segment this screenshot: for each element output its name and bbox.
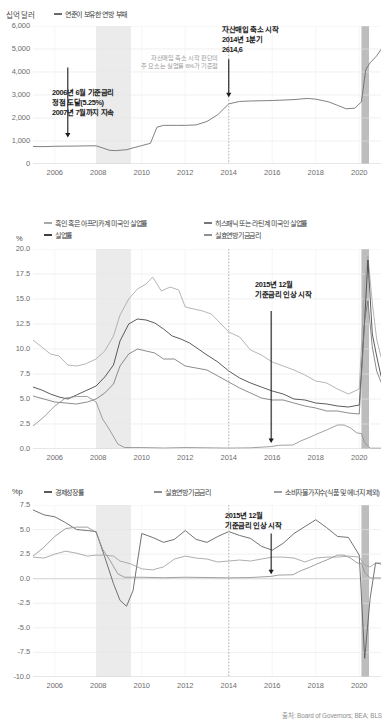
- panel3-legend: 경제성장률 실효연방기금금리 소비자물가지수(식품 및 에너지 제외): [44, 487, 386, 497]
- annotation-line: 2015년 12월: [225, 511, 282, 521]
- panel-unemployment: % 흑인 혹은 아프리카계 미국인 실업률 히스패닉 또는 라틴계 미국인 실업…: [0, 205, 386, 483]
- y-axis-tick: -5.0: [2, 623, 30, 632]
- y-axis-tick: 17.5: [2, 269, 30, 278]
- annotation-line: 기준금리 인상 시작: [255, 290, 312, 300]
- series-line: [33, 527, 381, 578]
- y-axis-tick: 10.0: [2, 344, 30, 353]
- x-axis-tick: 2006: [41, 168, 69, 177]
- x-axis-tick: 2012: [171, 681, 199, 690]
- panel-growth-inflation: %p 경제성장률 실효연방기금금리 소비자물가지수(식품 및 에너지 제외) 2…: [0, 483, 386, 723]
- annotation-taper-criteria-note: 자산매입 축소 시작 판단의 주 요소는 실업률 6%가 기준점: [128, 54, 218, 71]
- x-axis-tick: 2008: [84, 168, 112, 177]
- annotation-line: 2014년 1분기: [222, 35, 279, 45]
- y-axis-tick: 20.0: [2, 244, 30, 253]
- x-axis-tick: 2008: [84, 453, 112, 462]
- y-axis-tick: 0.0: [2, 444, 30, 453]
- annotation-taper-start-2014: 자산매입 축소 시작 2014년 1분기 2614,6: [222, 25, 279, 54]
- annotation-arrow-taper-2014: [226, 59, 231, 97]
- legend-label: 연준이 보유한 연방 부채: [65, 9, 127, 19]
- legend-label: 실업률: [55, 230, 72, 240]
- annotation-line: 정점 도달(5.25%): [52, 98, 114, 108]
- legend-label: 소비자물가지수(식품 및 에너지 제외): [285, 487, 380, 497]
- annotation-line: 자산매입 축소 시작 판단의: [128, 54, 218, 62]
- x-axis-tick: 2018: [302, 168, 330, 177]
- y-axis-tick: 0.0: [2, 574, 30, 583]
- panel2-legend-row1: 흑인 혹은 아프리카계 미국인 실업률 히스패닉 또는 라틴계 미국인 실업률: [44, 218, 317, 228]
- y-axis-tick: 7.5: [2, 369, 30, 378]
- annotation-line: 2614,6: [222, 45, 279, 55]
- annotation-line: 2006년 6월 기준금리: [52, 88, 114, 98]
- y-axis-tick: 0: [2, 159, 30, 168]
- legend-item-core-cpi: 소비자물가지수(식품 및 에너지 제외): [274, 487, 380, 497]
- annotation-line: 기준금리 인상 시작: [225, 521, 282, 531]
- x-axis-tick: 2012: [171, 168, 199, 177]
- legend-label: 경제성장률: [55, 487, 84, 497]
- source-note: 출처: Board of Governors; BEA; BLS: [282, 711, 382, 720]
- legend-item-fed-holdings: 연준이 보유한 연방 부채: [54, 9, 127, 19]
- x-axis-tick: 2006: [41, 453, 69, 462]
- legend-dash-icon: [154, 491, 162, 492]
- y-axis-tick: 5.0: [2, 394, 30, 403]
- y-axis-tick: 2,000: [2, 113, 30, 122]
- legend-label: 흑인 혹은 아프리카계 미국인 실업률: [55, 218, 147, 228]
- y-axis-tick: -10.0: [2, 672, 30, 681]
- legend-item-hispanic-unemployment: 실업률: [44, 230, 194, 240]
- x-axis-tick: 2018: [302, 453, 330, 462]
- annotation-line: 2015년 12월: [255, 280, 312, 290]
- x-axis-tick: 2010: [128, 168, 156, 177]
- panel2-legend-row2: 실업률 실효연방기금금리: [44, 230, 271, 240]
- panel1-legend: 연준이 보유한 연방 부채: [54, 9, 137, 19]
- x-axis-tick: 2012: [171, 453, 199, 462]
- y-axis-tick: 2.5: [2, 549, 30, 558]
- y-axis-tick: -2.5: [2, 598, 30, 607]
- y-axis-tick: 5.0: [2, 525, 30, 534]
- annotation-rate-hike-2015-panel3: 2015년 12월 기준금리 인상 시작: [225, 511, 282, 531]
- x-axis-tick: 2010: [128, 453, 156, 462]
- annotation-rate-hike-2015-panel2: 2015년 12월 기준금리 인상 시작: [255, 280, 312, 300]
- x-axis-tick: 2016: [258, 681, 286, 690]
- series-line: [33, 301, 381, 414]
- x-axis-tick: 2020: [345, 453, 373, 462]
- legend-dash-icon: [44, 222, 52, 223]
- legend-dash-icon: [44, 234, 52, 235]
- y-axis-tick: 6,000: [2, 21, 30, 30]
- y-axis-tick: 3,000: [2, 90, 30, 99]
- legend-dash-icon: [54, 13, 62, 14]
- x-axis-tick: 2016: [258, 168, 286, 177]
- annotation-line: 주 요소는 실업률 6%가 기준점: [128, 62, 218, 70]
- x-axis-tick: 2014: [215, 453, 243, 462]
- panel1-unit-label: 십억 달러: [6, 9, 35, 20]
- y-axis-tick: 5,000: [2, 44, 30, 53]
- series-line: [33, 256, 381, 394]
- y-axis-tick: 15.0: [2, 294, 30, 303]
- panel-fed-holdings: 십억 달러 연준이 보유한 연방 부채 2006년 6월 기준금리 정점 도달(…: [0, 0, 386, 200]
- legend-dash-icon: [274, 491, 282, 492]
- x-axis-tick: 2008: [84, 681, 112, 690]
- x-axis-tick: 2020: [345, 168, 373, 177]
- x-axis-tick: 2016: [258, 453, 286, 462]
- y-axis-tick: 7.5: [2, 500, 30, 509]
- infographic-page: 십억 달러 연준이 보유한 연방 부채 2006년 6월 기준금리 정점 도달(…: [0, 0, 386, 723]
- legend-dash-icon: [204, 222, 212, 223]
- annotation-rate-peak-2006: 2006년 6월 기준금리 정점 도달(5.25%) 2007년 7월까지 지속: [52, 88, 114, 117]
- legend-dash-icon: [204, 234, 212, 235]
- legend-label: 히스패닉 또는 라틴계 미국인 실업률: [215, 218, 307, 228]
- y-axis-tick: -7.5: [2, 647, 30, 656]
- annotation-line: 자산매입 축소 시작: [222, 25, 279, 35]
- x-axis-tick: 2014: [215, 681, 243, 690]
- y-axis-tick: 12.5: [2, 319, 30, 328]
- series-line: [33, 260, 381, 407]
- panel2-plot: [33, 249, 381, 449]
- plot3-svg: [33, 505, 381, 677]
- legend-dash-icon: [44, 491, 52, 492]
- x-axis-tick: 2020: [345, 681, 373, 690]
- legend-label: 실효연방기금금리: [215, 230, 261, 240]
- y-axis-tick: 1,000: [2, 136, 30, 145]
- y-axis-tick: 4,000: [2, 67, 30, 76]
- y-axis-tick: 2.5: [2, 419, 30, 428]
- plot2-svg: [33, 249, 381, 449]
- shaded-region-great-recession: [96, 505, 131, 677]
- x-axis-tick: 2010: [128, 681, 156, 690]
- x-axis-tick: 2014: [215, 168, 243, 177]
- annotation-arrow-rate-hike-2015: [269, 311, 274, 443]
